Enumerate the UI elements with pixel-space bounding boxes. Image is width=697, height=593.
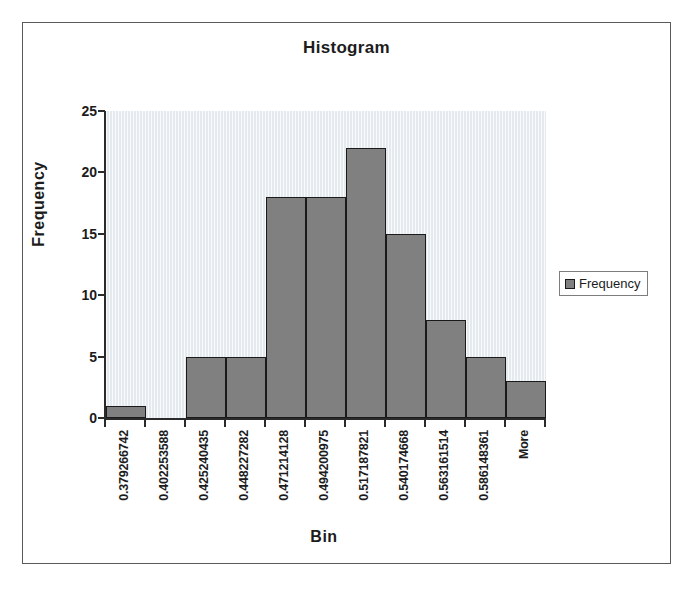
- bar-slot: [506, 111, 546, 418]
- x-axis-tick: [104, 420, 106, 427]
- bar-slot: [386, 111, 426, 418]
- bar-slot: [346, 111, 386, 418]
- x-label-slot: 0.402253588: [144, 430, 184, 540]
- histogram-bar[interactable]: [466, 357, 506, 418]
- x-axis-tick-marks: [104, 420, 544, 428]
- histogram-bar[interactable]: [266, 197, 306, 418]
- x-axis-title: Bin: [104, 528, 544, 546]
- histogram-bar[interactable]: [506, 381, 546, 418]
- y-axis-tick-label: 5: [89, 349, 97, 365]
- bar-slot: [146, 111, 186, 418]
- histogram-bar[interactable]: [226, 357, 266, 418]
- x-axis-tick-label: 0.402253588: [157, 430, 171, 501]
- x-axis-tick: [464, 420, 466, 427]
- x-label-slot: More: [504, 430, 544, 540]
- x-axis-tick: [344, 420, 346, 427]
- x-axis-tick: [224, 420, 226, 427]
- x-label-slot: 0.448227282: [224, 430, 264, 540]
- x-axis-tick-label: 0.563161514: [437, 430, 451, 501]
- x-axis-tick-label: 0.586148361: [477, 430, 491, 501]
- bar-slot: [106, 111, 146, 418]
- chart-legend[interactable]: Frequency: [559, 271, 648, 296]
- bar-slot: [226, 111, 266, 418]
- y-axis-tick-label: 0: [89, 410, 97, 426]
- y-axis-tick-label: 25: [81, 103, 97, 119]
- x-axis-tick-labels: 0.3792667420.4022535880.4252404350.44822…: [104, 430, 544, 540]
- histogram-bar[interactable]: [306, 197, 346, 418]
- plot-area: [104, 111, 546, 420]
- y-axis-title: Frequency: [30, 124, 48, 284]
- histogram-bars: [106, 111, 546, 418]
- x-axis-tick: [304, 420, 306, 427]
- histogram-bar[interactable]: [346, 148, 386, 418]
- x-label-slot: 0.517187821: [344, 430, 384, 540]
- histogram-bar[interactable]: [186, 357, 226, 418]
- chart-frame[interactable]: Histogram Frequency 0510152025 0.3792667…: [22, 22, 671, 564]
- x-label-slot: 0.540174668: [384, 430, 424, 540]
- x-label-slot: 0.586148361: [464, 430, 504, 540]
- x-label-slot: 0.471214128: [264, 430, 304, 540]
- y-axis-tick-labels: 0510152025: [57, 111, 97, 418]
- x-axis-tick: [504, 420, 506, 427]
- x-label-slot: 0.563161514: [424, 430, 464, 540]
- histogram-bar[interactable]: [386, 234, 426, 418]
- x-axis-tick-label: 0.494200975: [317, 430, 331, 501]
- x-axis-tick-label: More: [517, 430, 531, 459]
- x-axis-tick: [424, 420, 426, 427]
- histogram-bar[interactable]: [426, 320, 466, 418]
- x-axis-tick: [544, 420, 546, 427]
- x-axis-tick: [384, 420, 386, 427]
- x-axis-tick-label: 0.540174668: [397, 430, 411, 501]
- bar-slot: [466, 111, 506, 418]
- bar-slot: [306, 111, 346, 418]
- x-axis-tick-label: 0.517187821: [357, 430, 371, 501]
- x-axis-tick-label: 0.471214128: [277, 430, 291, 501]
- x-axis-tick: [264, 420, 266, 427]
- y-axis-tick-label: 15: [81, 226, 97, 242]
- bar-slot: [426, 111, 466, 418]
- x-axis-tick-label: 0.448227282: [237, 430, 251, 501]
- x-label-slot: 0.425240435: [184, 430, 224, 540]
- bar-slot: [266, 111, 306, 418]
- x-label-slot: 0.379266742: [104, 430, 144, 540]
- x-axis-tick-label: 0.379266742: [117, 430, 131, 501]
- y-axis-tick-label: 20: [81, 164, 97, 180]
- legend-label-frequency: Frequency: [579, 276, 640, 291]
- x-axis-tick: [184, 420, 186, 427]
- y-axis-tick-label: 10: [81, 287, 97, 303]
- chart-title: Histogram: [23, 38, 670, 58]
- x-axis-tick-label: 0.425240435: [197, 430, 211, 501]
- x-axis-tick: [144, 420, 146, 427]
- histogram-bar[interactable]: [106, 406, 146, 418]
- x-label-slot: 0.494200975: [304, 430, 344, 540]
- bar-slot: [186, 111, 226, 418]
- legend-swatch-frequency: [565, 279, 575, 289]
